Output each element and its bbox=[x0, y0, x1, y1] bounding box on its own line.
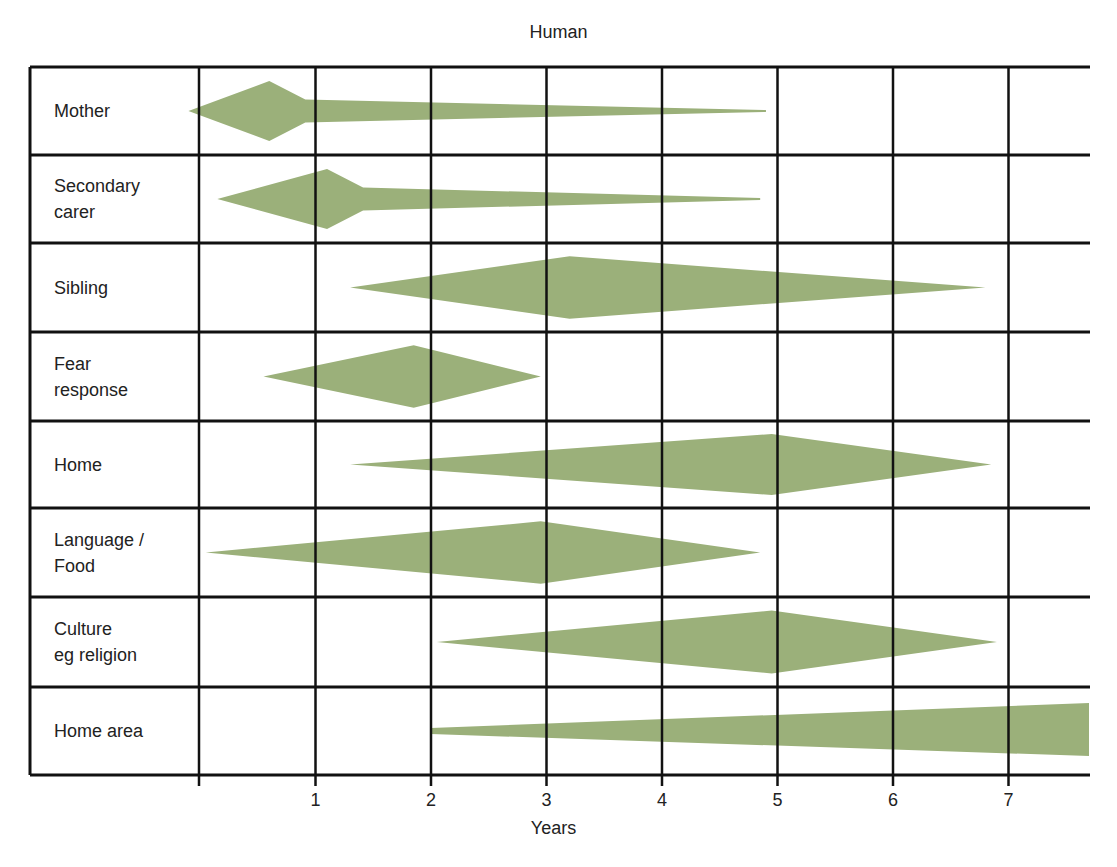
x-tick-label: 3 bbox=[532, 790, 562, 811]
x-axis-title-text: Years bbox=[531, 818, 576, 838]
row-label-line: Home bbox=[54, 452, 194, 478]
row-label: Secondarycarer bbox=[54, 155, 194, 243]
row-label-line: Mother bbox=[54, 98, 194, 124]
x-tick-label: 1 bbox=[301, 790, 331, 811]
attachment-shapes bbox=[188, 81, 1089, 756]
developmental-attachment-diagram: Human MotherSecondarycarerSiblingFearres… bbox=[0, 0, 1117, 867]
shape-mother bbox=[188, 81, 766, 141]
x-tick-label: 6 bbox=[878, 790, 908, 811]
row-label-line: Home area bbox=[54, 718, 194, 744]
row-label-line: Food bbox=[54, 553, 194, 579]
shape-fear-response bbox=[264, 345, 541, 407]
shape-secondary-carer bbox=[217, 169, 760, 229]
shape-home-area bbox=[431, 703, 1089, 756]
row-label: Home bbox=[54, 421, 194, 508]
shape-culture-eg-religion bbox=[437, 611, 997, 674]
x-tick-label: 2 bbox=[416, 790, 446, 811]
shape-home bbox=[350, 434, 991, 495]
row-label: Language /Food bbox=[54, 508, 194, 597]
row-label: Sibling bbox=[54, 243, 194, 332]
x-axis-title: Years bbox=[0, 818, 1117, 839]
x-tick-label: 7 bbox=[994, 790, 1024, 811]
x-tick-label: 4 bbox=[647, 790, 677, 811]
row-label-line: response bbox=[54, 377, 194, 403]
row-label-line: Sibling bbox=[54, 275, 194, 301]
row-label: Cultureeg religion bbox=[54, 597, 194, 687]
row-label-line: Language / bbox=[54, 527, 194, 553]
row-label-line: carer bbox=[54, 199, 194, 225]
row-label-line: Culture bbox=[54, 616, 194, 642]
row-label: Fearresponse bbox=[54, 332, 194, 421]
row-label-line: Fear bbox=[54, 351, 194, 377]
row-label-line: eg religion bbox=[54, 642, 194, 668]
row-label-line: Secondary bbox=[54, 173, 194, 199]
row-label: Home area bbox=[54, 687, 194, 775]
shape-language-food bbox=[206, 521, 760, 583]
x-tick-label: 5 bbox=[763, 790, 793, 811]
shape-sibling bbox=[350, 256, 985, 318]
row-label: Mother bbox=[54, 67, 194, 155]
